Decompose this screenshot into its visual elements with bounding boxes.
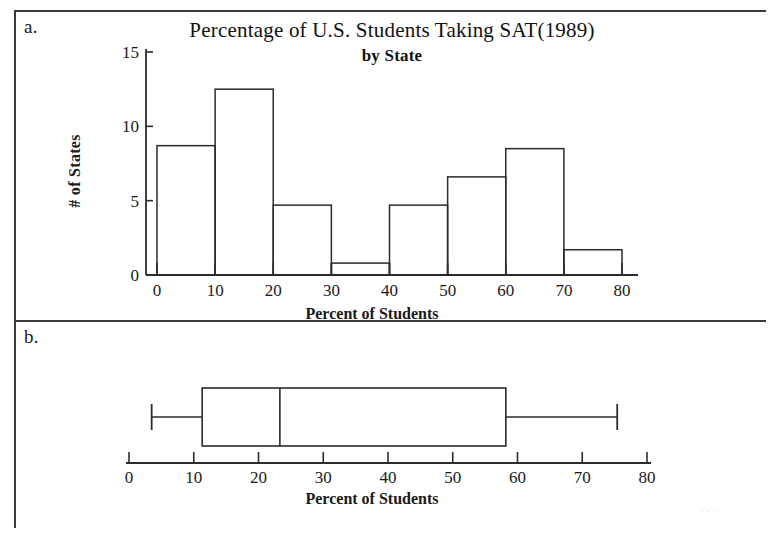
x-tick-label: 0 [125, 468, 134, 487]
x-tick-label: 60 [497, 281, 514, 300]
x-tick-label: 50 [439, 281, 456, 300]
y-tick-label: 5 [131, 192, 140, 211]
x-tick-label: 40 [381, 281, 398, 300]
x-tick-label: 10 [185, 468, 202, 487]
y-tick-label: 15 [122, 43, 139, 62]
boxplot-plot-area: 01020304050607080 [16, 322, 768, 530]
figure-container: a. Percentage of U.S. Students Taking SA… [0, 0, 779, 535]
panel-b-boxplot: b. Percent of Students 01020304050607080 [14, 320, 766, 528]
histogram-bar [564, 250, 622, 275]
histogram-bar [506, 149, 564, 275]
histogram-plot-area: 05101501020304050607080 [16, 12, 768, 322]
x-tick-label: 50 [444, 468, 461, 487]
histogram-bar [390, 205, 448, 275]
x-tick-label: 70 [574, 468, 591, 487]
panel-a-histogram: a. Percentage of U.S. Students Taking SA… [14, 10, 766, 320]
histogram-chart: Percentage of U.S. Students Taking SAT(1… [16, 12, 768, 322]
x-tick-label: 0 [153, 281, 162, 300]
x-tick-label: 40 [380, 468, 397, 487]
x-tick-label: 80 [639, 468, 656, 487]
histogram-bar [448, 177, 506, 275]
y-tick-label: 10 [122, 117, 139, 136]
histogram-bar [215, 89, 273, 275]
box [202, 388, 506, 446]
x-tick-label: 10 [207, 281, 224, 300]
x-tick-label: 30 [323, 281, 340, 300]
x-tick-label: 20 [265, 281, 282, 300]
x-tick-label: 60 [509, 468, 526, 487]
histogram-bar [331, 263, 389, 275]
histogram-bar [273, 205, 331, 275]
x-tick-label: 70 [555, 281, 572, 300]
x-tick-label: 80 [614, 281, 631, 300]
boxplot-chart: Percent of Students 01020304050607080 [16, 322, 768, 530]
x-tick-label: 30 [315, 468, 332, 487]
histogram-bar [157, 146, 215, 275]
x-tick-label: 20 [250, 468, 267, 487]
scan-artifact: · · · [700, 505, 717, 517]
y-tick-label: 0 [131, 266, 140, 285]
